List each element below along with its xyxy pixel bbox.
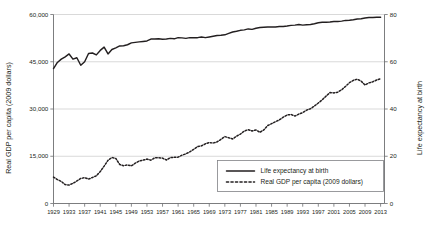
x-tick-label: 1949 — [125, 209, 138, 215]
x-tick-label: 1973 — [219, 209, 232, 215]
x-tick-label: 1969 — [203, 209, 216, 215]
x-tick-label: 1981 — [250, 209, 263, 215]
x-tick-label: 2009 — [359, 209, 372, 215]
x-tick-label: 1997 — [312, 209, 325, 215]
chart-legend: Life expectancy at birthReal GDP per cap… — [218, 161, 384, 192]
x-tick-label: 1941 — [94, 209, 107, 215]
x-tick-label: 1937 — [78, 209, 91, 215]
x-tick-label: 1989 — [281, 209, 294, 215]
legend-label: Life expectancy at birth — [261, 167, 329, 175]
x-tick-label: 1933 — [63, 209, 76, 215]
dual-axis-line-chart: 1929193319371941194519491953195719611965… — [0, 0, 431, 236]
y-tick-label-left: 30,000 — [29, 105, 48, 112]
x-axis-tick-labels: 1929193319371941194519491953195719611965… — [47, 209, 387, 215]
y-axis-left-ticks — [50, 15, 53, 204]
y-tick-label-right: 60 — [390, 58, 397, 65]
x-tick-label: 1961 — [172, 209, 185, 215]
y-axis-right-title: Life expectancy at birth — [415, 81, 424, 155]
legend-box — [218, 161, 384, 192]
y-axis-left-tick-labels: 60,00045,00030,00015,0000 — [29, 11, 48, 207]
legend-label: Real GDP per capita (2009 dollars) — [261, 178, 364, 186]
y-axis-left-title: Real GDP per capita (2009 dollars) — [4, 62, 13, 174]
y-tick-label-right: 0 — [390, 200, 394, 207]
y-axis-right-ticks — [385, 15, 388, 204]
y-tick-label-left: 45,000 — [29, 58, 48, 65]
x-tick-label: 1965 — [187, 209, 200, 215]
x-tick-label: 2005 — [343, 209, 356, 215]
y-tick-label-left: 15,000 — [29, 152, 48, 159]
x-tick-label: 2013 — [374, 209, 387, 215]
y-tick-label-right: 40 — [390, 105, 397, 112]
x-tick-label: 1953 — [141, 209, 154, 215]
y-axis-right-tick-labels: 806040200 — [390, 11, 397, 207]
chart-container: 1929193319371941194519491953195719611965… — [0, 0, 431, 236]
x-tick-label: 2001 — [328, 209, 341, 215]
x-tick-label: 1977 — [234, 209, 247, 215]
y-tick-label-left: 60,000 — [29, 11, 48, 18]
y-tick-label-right: 80 — [390, 11, 397, 18]
y-tick-label-right: 20 — [390, 152, 397, 159]
x-axis-ticks — [54, 204, 381, 207]
x-tick-label: 1985 — [265, 209, 278, 215]
x-tick-label: 1945 — [109, 209, 122, 215]
x-tick-label: 1929 — [47, 209, 60, 215]
y-tick-label-left: 0 — [45, 200, 49, 207]
x-tick-label: 1957 — [156, 209, 169, 215]
x-tick-label: 1993 — [296, 209, 309, 215]
